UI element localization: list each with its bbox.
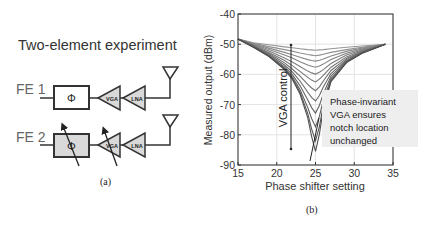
y-tick-label: -80 (220, 129, 235, 141)
measured-output-chart: 1520253035-90-80-70-60-50-40 Phase shift… (0, 0, 421, 227)
vga-control-label: VGA control (277, 69, 289, 128)
note-line-3: notch location (330, 122, 389, 133)
y-axis-label: Measured output (dBm) (202, 35, 214, 145)
y-tick-label: -50 (220, 38, 235, 50)
note-line-1: Phase-invariant (330, 96, 396, 107)
x-tick-label: 20 (271, 167, 283, 179)
y-tick-label: -70 (220, 99, 235, 111)
y-tick-label: -90 (220, 159, 235, 171)
x-axis-label: Phase shifter setting (265, 180, 365, 192)
note-line-4: unchanged (330, 135, 377, 146)
y-tick-label: -60 (220, 68, 235, 80)
x-tick-label: 35 (387, 167, 399, 179)
x-tick-label: 25 (310, 167, 322, 179)
y-tick-label: -40 (220, 8, 235, 20)
note-line-2: VGA ensures (330, 109, 386, 120)
x-tick-label: 30 (348, 167, 360, 179)
panel-b-caption: (b) (306, 204, 318, 215)
